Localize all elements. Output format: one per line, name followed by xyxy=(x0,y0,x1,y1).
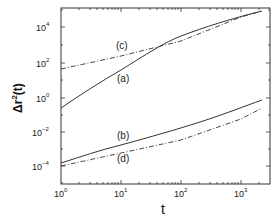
svg-text:101: 101 xyxy=(114,187,128,199)
svg-text:Δr2(t): Δr2(t) xyxy=(10,83,25,113)
curve-c xyxy=(61,11,262,69)
svg-text:100: 100 xyxy=(54,187,68,199)
svg-text:100: 100 xyxy=(36,92,50,104)
svg-text:104: 104 xyxy=(36,21,50,33)
curve-a xyxy=(61,11,262,108)
x-tick-labels: 100 101 102 103 xyxy=(54,187,248,199)
svg-text:10−2: 10−2 xyxy=(32,126,50,138)
x-axis-title: t xyxy=(161,201,165,217)
y-tick-labels: 104 102 100 10−2 10−4 xyxy=(32,21,50,172)
svg-text:102: 102 xyxy=(174,187,188,199)
svg-text:10−4: 10−4 xyxy=(32,160,50,172)
chart: (c) (a) (b) (d) 104 102 100 10−2 10−4 10… xyxy=(0,0,277,220)
y-ticks xyxy=(61,10,270,183)
x-ticks xyxy=(79,8,259,184)
label-a: (a) xyxy=(117,73,129,84)
label-c: (c) xyxy=(116,40,128,51)
svg-text:102: 102 xyxy=(36,57,50,69)
plot-frame xyxy=(61,8,270,184)
label-b: (b) xyxy=(117,130,129,141)
curve-b xyxy=(61,100,262,163)
label-d: (d) xyxy=(117,153,129,164)
y-axis-title: Δr2(t) xyxy=(10,83,25,113)
svg-text:103: 103 xyxy=(234,187,248,199)
curve-d xyxy=(61,108,262,166)
